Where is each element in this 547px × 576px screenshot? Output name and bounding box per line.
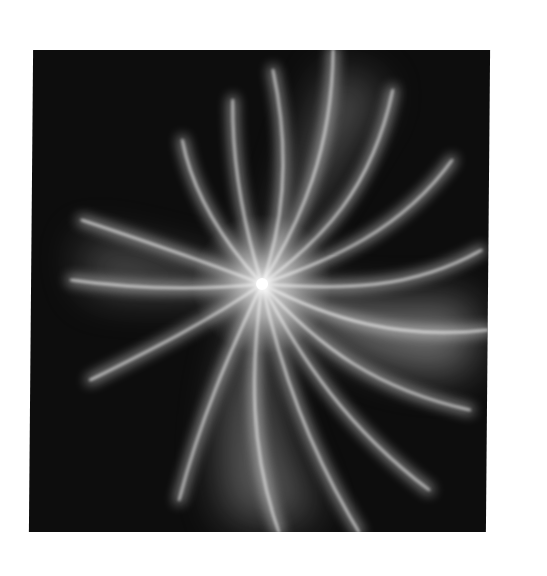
light-swirl-graphic [29,50,490,532]
artwork-panel [29,50,490,532]
